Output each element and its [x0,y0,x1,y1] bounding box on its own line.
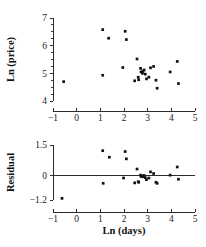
data-point [108,156,111,159]
data-point [145,178,148,181]
data-point [137,181,140,184]
data-point [133,182,136,185]
data-point [139,67,142,70]
x-tick-label: 1 [98,113,103,123]
data-point [102,182,105,185]
y-axis-title: Residual [5,153,16,192]
data-point [144,73,147,76]
data-point [125,38,128,41]
data-points [61,149,180,199]
panel-residual: −1.201.5−1012345ResidualLn (days) [5,140,198,237]
data-point [124,150,127,153]
data-point [155,79,158,82]
y-tick-label: 6 [42,41,47,51]
data-point [101,28,104,31]
data-point [101,149,104,152]
data-point [169,174,172,177]
x-tick-label: 5 [193,113,198,123]
data-point [101,74,104,77]
data-point [148,76,151,79]
x-tick-label: −1 [48,214,58,224]
data-point [121,66,124,69]
x-tick-label: 3 [145,113,150,123]
data-point [137,78,140,81]
x-tick-label: 2 [122,113,127,123]
data-point [133,79,136,82]
data-point [177,178,180,181]
two-panel-scatter-figure: 4567−1012345Ln (price)−1.201.5−1012345Re… [0,0,206,247]
data-point [136,168,139,171]
y-tick-label: 5 [42,69,47,79]
y-tick-label: 0 [42,171,47,181]
figure-panel: 4567−1012345Ln (price)−1.201.5−1012345Re… [0,0,206,247]
x-tick-label: 4 [169,214,174,224]
data-point [177,82,180,85]
data-point [61,197,64,200]
data-point [149,171,152,174]
data-point [143,69,146,72]
panel-price: 4567−1012345Ln (price) [5,13,198,123]
data-point [152,172,155,175]
x-tick-label: 0 [74,113,79,123]
data-point [169,71,172,74]
data-point [62,80,65,83]
data-point [152,65,155,68]
data-point [176,60,179,63]
data-point [137,76,140,79]
data-point [107,37,110,40]
x-tick-label: 0 [74,214,79,224]
y-tick-label: 1.5 [35,140,47,150]
y-tick-label: 4 [42,96,47,106]
data-point [176,166,179,169]
data-point [156,87,159,90]
data-point [145,78,148,81]
data-point [156,182,159,185]
data-point [141,72,144,75]
data-point [148,177,151,180]
data-point [124,30,127,33]
data-point [136,58,139,61]
x-tick-label: 5 [193,214,198,224]
x-tick-label: 4 [169,113,174,123]
y-tick-label: 7 [42,13,47,23]
x-axis-title: Ln (days) [103,225,146,237]
data-point [122,177,125,180]
x-tick-label: 2 [122,214,127,224]
data-points [62,28,179,89]
data-point [125,158,128,161]
y-tick-label: −1.2 [30,195,47,205]
data-point [149,66,152,69]
x-tick-label: −1 [48,113,58,123]
y-axis-title: Ln (price) [5,36,17,82]
x-tick-label: 1 [98,214,103,224]
x-tick-label: 3 [145,214,150,224]
